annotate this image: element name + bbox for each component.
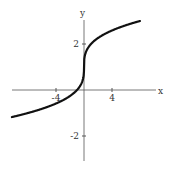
y-axis-label: y bbox=[79, 8, 86, 18]
y-tick-label: 2 bbox=[73, 39, 79, 49]
y-tick-label: -2 bbox=[70, 131, 79, 141]
x-axis-label: x bbox=[158, 86, 163, 96]
chart: -442-2 x y bbox=[0, 0, 173, 171]
function-curve bbox=[12, 21, 140, 117]
x-tick-label: 4 bbox=[109, 93, 115, 103]
